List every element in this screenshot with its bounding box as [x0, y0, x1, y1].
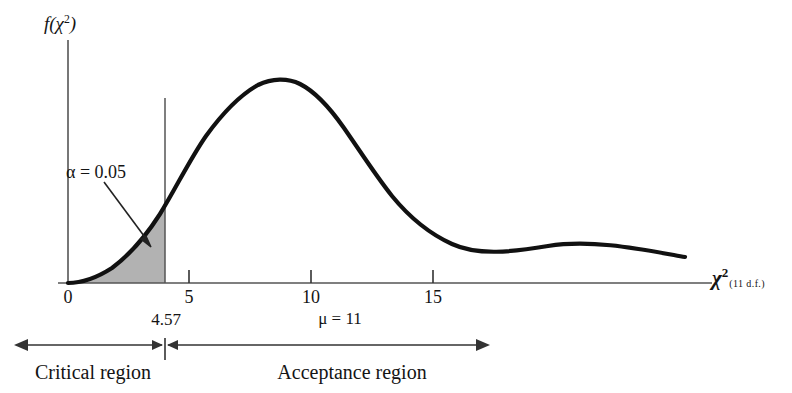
y-axis-label-suffix: ): [70, 13, 76, 34]
shaded-critical-region: [68, 198, 165, 283]
critical-region-label: Critical region: [35, 362, 151, 382]
x-axis-label-variable: χ: [712, 266, 722, 290]
x-tick-label-10: 10: [302, 288, 320, 306]
critical-region-arrow-inner-head: [152, 340, 163, 350]
chart-canvas: [0, 0, 792, 393]
alpha-annotation-arrow-shaft: [104, 182, 147, 240]
x-tick-label-0: 0: [64, 288, 73, 306]
y-axis-label-prefix: f(: [44, 13, 56, 34]
x-tick-label-15: 15: [424, 288, 442, 306]
critical-region-arrow-head: [14, 339, 28, 351]
alpha-annotation-label: α = 0.05: [66, 163, 126, 181]
x-tick-label-5: 5: [185, 288, 194, 306]
x-axis-label: χ2(11 d.f.): [712, 266, 765, 289]
y-axis-label: f(χ2): [44, 14, 76, 33]
x-axis-label-superscript: 2: [722, 265, 729, 280]
acceptance-region-label: Acceptance region: [277, 362, 426, 382]
acceptance-region-arrow-head: [476, 339, 490, 351]
acceptance-region-arrow-inner-head: [167, 340, 178, 350]
y-axis-label-variable: χ: [56, 13, 64, 34]
chi-square-distribution-figure: f(χ2) α = 0.05 0 5 10 15 4.57 μ = 11 χ2(…: [0, 0, 792, 393]
x-axis-label-subscript: (11 d.f.): [729, 278, 765, 289]
critical-value-label: 4.57: [151, 311, 181, 328]
mean-label: μ = 11: [318, 310, 362, 327]
